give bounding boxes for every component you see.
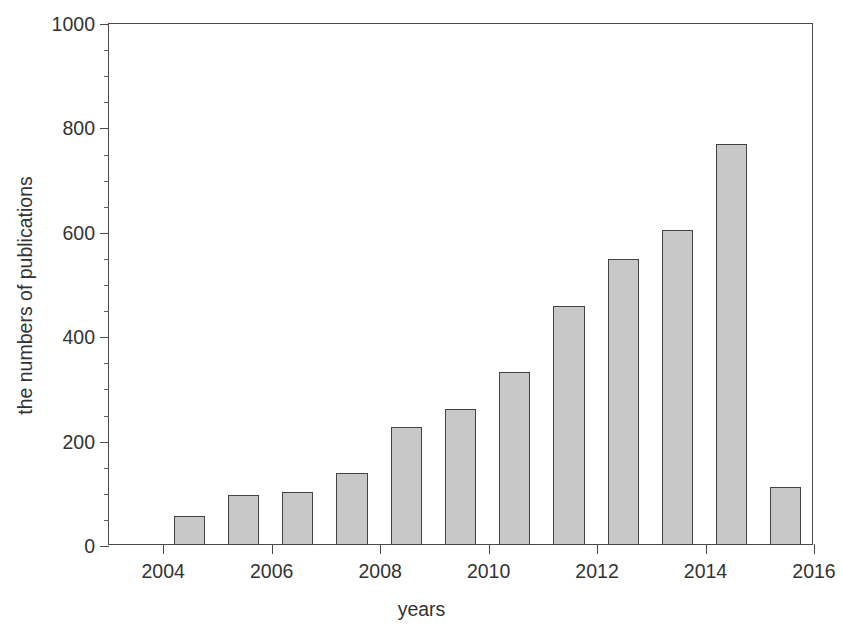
bar-series: [108, 23, 813, 545]
x-axis-tick: [272, 544, 273, 554]
x-axis-tick: [706, 544, 707, 554]
x-axis-tick-label: 2010: [467, 560, 510, 583]
x-axis-tick: [163, 544, 164, 554]
x-axis-tick-label: 2004: [142, 560, 185, 583]
bar: [336, 473, 367, 545]
x-axis-tick: [597, 544, 598, 554]
x-axis-tick: [380, 544, 381, 554]
bar: [174, 516, 205, 545]
y-axis-tick-label: 800: [62, 117, 95, 140]
y-axis-tick-label: 400: [62, 326, 95, 349]
x-axis-tick: [489, 544, 490, 554]
bar: [716, 144, 747, 545]
x-axis-tick-label: 2006: [250, 560, 293, 583]
y-axis-tick-label: 1000: [52, 13, 95, 36]
bar: [553, 306, 584, 545]
x-axis-tick: [814, 544, 815, 554]
y-axis-title: the numbers of publications: [14, 131, 37, 461]
bar: [662, 230, 693, 545]
x-axis-tick-label: 2014: [684, 560, 727, 583]
bar: [770, 487, 801, 545]
y-axis-tick: [100, 546, 109, 547]
bar: [228, 495, 259, 545]
y-axis-tick-label: 600: [62, 221, 95, 244]
x-axis-title: years: [0, 598, 843, 621]
y-axis-tick-label: 200: [62, 430, 95, 453]
bar: [499, 372, 530, 545]
bar: [445, 409, 476, 545]
bar: [391, 427, 422, 545]
chart-figure: the importance of electrospinning techno…: [0, 0, 843, 638]
y-axis-tick-label: 0: [84, 535, 95, 558]
bar: [608, 259, 639, 545]
x-axis-tick-label: 2008: [358, 560, 401, 583]
x-axis-tick-label: 2016: [792, 560, 835, 583]
bar: [282, 492, 313, 545]
x-axis-tick-label: 2012: [575, 560, 618, 583]
